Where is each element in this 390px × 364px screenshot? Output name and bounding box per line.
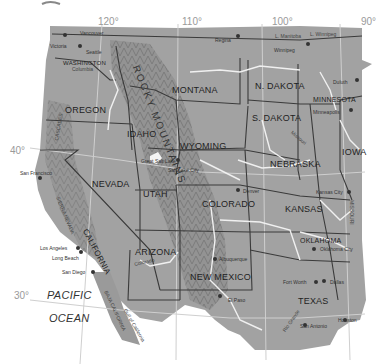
corner-arc [42,2,60,4]
state-label-nevada: NEVADA [92,180,130,189]
city-label-los-angeles: Los Angeles [40,246,67,251]
state-label-iowa: IOWA [342,148,366,157]
city-label-long-beach: Long Beach [52,256,79,261]
ocean-label-pacific: PACIFIC [47,290,92,301]
city-label-san-diego: San Diego [62,270,85,275]
city-label-minneapolis: Minneapolis [313,110,340,115]
city-label-albuquerque: Albuquerque [219,257,247,262]
longitude-label-110: 110° [182,17,202,27]
state-label-north-dakota: N. DAKOTA [255,82,305,91]
state-label-utah: UTAH [143,190,168,199]
map-canvas [0,0,390,364]
longitude-label-90: 90° [361,17,376,27]
state-label-montana: MONTANA [172,86,218,95]
state-label-oklahoma: OKLAHOMA [300,237,341,244]
state-label-arizona: ARIZONA [135,248,176,257]
city-label-san-francisco: San Francisco [20,171,52,176]
state-label-oregon: OREGON [65,106,106,115]
state-label-missouri: MISSOURI [349,200,354,225]
lake-label-winnipeg: L. Winnipeg [310,32,336,37]
river-label-columbia: Columbia [72,67,93,72]
longitude-label-120: 120° [98,17,119,27]
state-label-colorado: COLORADO [202,200,255,209]
city-label-winnipeg: Winnipeg [274,48,295,53]
city-label-denver: Denver [243,189,259,194]
city-label-houston: Houston [338,318,357,323]
state-label-new-mexico: NEW MEXICO [190,273,251,282]
city-label-fort-worth: Fort Worth [283,280,307,285]
city-label-oklahoma-city: Oklahoma City [320,247,353,252]
city-label-san-antonio: San Antonio [300,324,327,329]
state-label-idaho: IDAHO [127,130,157,139]
latitude-label-40: 40° [10,146,25,156]
lake-label-manitoba: L. Manitoba [275,34,301,39]
city-label-el-paso: El Paso [228,298,245,303]
state-label-kansas: KANSAS [285,205,323,214]
state-label-nebraska: NEBRASKA [270,160,321,169]
state-label-wyoming: WYOMING [180,142,226,151]
longitude-label-100: 100° [272,17,293,27]
state-label-texas: TEXAS [298,297,329,306]
latitude-label-30: 30° [14,291,29,301]
city-label-victoria: Victoria [50,44,67,49]
city-label-duluth: Duluth [333,80,347,85]
state-label-south-dakota: S. DAKOTA [252,114,301,123]
city-label-vancouver: Vancouver [80,31,104,36]
ocean-label-ocean: OCEAN [49,313,90,324]
city-label-regina: Regina [215,38,231,43]
city-label-seattle: Seattle [86,50,102,55]
state-label-minnesota: MINNESOTA [313,96,356,103]
city-label-kansas-city: Kansas City [316,190,343,195]
city-label-dallas: Dallas [330,280,344,285]
